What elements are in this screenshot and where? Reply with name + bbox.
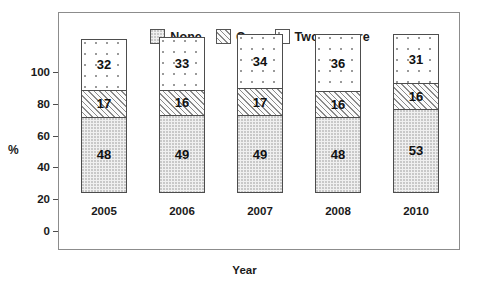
bar-value-one-2006: 16 [175,96,189,109]
bar-segment-two-or-more-2008[interactable]: 36 [315,34,361,91]
bar-stack-2005: 48 17 32 [81,39,127,193]
bar-value-two-or-more-2005: 32 [97,58,111,71]
bar-value-two-or-more-2007: 34 [253,55,267,68]
x-tick-label-2005: 2005 [75,205,133,217]
bar-stack-2006: 49 16 33 [159,37,205,193]
bar-segment-two-or-more-2006[interactable]: 33 [159,37,205,90]
y-tick-label-0: 0 [18,225,50,237]
y-axis-title: % [8,143,19,157]
bar-segment-none-2007[interactable]: 49 [237,115,283,193]
bar-stack-2008: 48 16 36 [315,34,361,193]
y-tick-label-80: 80 [18,98,50,110]
bar-value-two-or-more-2008: 36 [331,57,345,70]
bar-segment-none-2008[interactable]: 48 [315,117,361,193]
bar-segment-two-or-more-2005[interactable]: 32 [81,39,127,90]
chart-plot-frame: None One Two or more 48 17 32 [58,12,460,250]
bar-value-none-2005: 48 [97,148,111,161]
bar-segment-one-2010[interactable]: 16 [393,83,439,108]
bar-value-none-2010: 53 [409,144,423,157]
chart-screenshot: 100 80 60 40 20 0 % None [0,0,489,286]
x-tick-label-2010: 2010 [387,205,445,217]
x-tick-label-2007: 2007 [231,205,289,217]
bar-value-none-2007: 49 [253,148,267,161]
bar-value-one-2007: 17 [253,96,267,109]
y-tick-label-20: 20 [18,193,50,205]
bar-segment-two-or-more-2007[interactable]: 34 [237,34,283,88]
bar-value-one-2005: 17 [97,97,111,110]
bar-value-none-2006: 49 [175,148,189,161]
bar-stack-2010: 53 16 31 [393,34,439,193]
bar-value-two-or-more-2010: 31 [409,53,423,66]
bar-segment-two-or-more-2010[interactable]: 31 [393,34,439,83]
bar-segment-one-2008[interactable]: 16 [315,91,361,116]
bar-value-none-2008: 48 [331,148,345,161]
bar-segment-one-2007[interactable]: 17 [237,88,283,115]
y-tick-label-40: 40 [18,161,50,173]
bar-segment-one-2006[interactable]: 16 [159,90,205,115]
bar-segment-one-2005[interactable]: 17 [81,90,127,117]
bar-value-one-2008: 16 [331,98,345,111]
bar-segment-none-2005[interactable]: 48 [81,117,127,193]
x-tick-label-2006: 2006 [153,205,211,217]
bar-segment-none-2006[interactable]: 49 [159,115,205,193]
y-tick-label-60: 60 [18,130,50,142]
diagonal-hatch-swatch-icon [216,29,231,44]
bar-value-two-or-more-2006: 33 [175,57,189,70]
y-tick-label-100: 100 [18,66,50,78]
bar-value-one-2010: 16 [409,90,423,103]
x-axis-title: Year [0,264,489,276]
bar-segment-none-2010[interactable]: 53 [393,109,439,193]
bar-stack-2007: 49 17 34 [237,34,283,193]
x-tick-label-2008: 2008 [309,205,367,217]
